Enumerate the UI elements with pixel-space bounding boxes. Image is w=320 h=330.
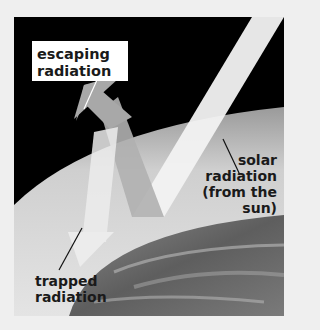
solar-label-line4: sun) [202, 200, 277, 216]
escaping-label-line1: escaping [37, 46, 111, 63]
trapped-label-line2: radiation [35, 289, 107, 305]
escaping-label-line2: radiation [37, 63, 111, 80]
escaping-radiation-label: escaping radiation [37, 46, 111, 80]
solar-label-line2: radiation [202, 168, 277, 184]
solar-label-line1: solar [202, 152, 277, 168]
solar-label-line3: (from the [202, 184, 277, 200]
trapped-radiation-label: trapped radiation [35, 273, 107, 305]
solar-radiation-label: solar radiation (from the sun) [202, 152, 277, 216]
trapped-label-line1: trapped [35, 273, 107, 289]
